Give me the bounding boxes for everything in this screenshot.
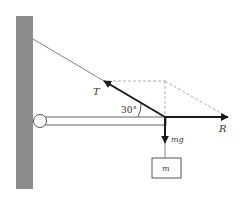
angle-label: 30° [121,105,137,115]
force-diagram: T 30° R mg m [0,0,244,206]
beam [45,117,166,125]
tension-label: T [93,86,101,97]
pivot-hinge [34,115,47,128]
wall [16,16,33,189]
weight-label: mg [171,135,184,144]
angle-arc [138,103,141,117]
mass-label: m [162,164,170,173]
reaction-label: R [218,123,227,134]
rope [33,39,104,81]
